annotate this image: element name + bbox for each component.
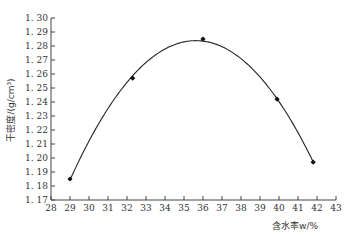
y-tick-label: 1. 19 xyxy=(25,167,48,177)
x-tick-label: 39 xyxy=(254,203,266,213)
y-tick-label: 1. 28 xyxy=(25,41,48,51)
y-tick-label: 1. 25 xyxy=(25,83,48,93)
x-tick-label: 32 xyxy=(121,203,132,213)
y-tick-label: 1. 22 xyxy=(25,125,48,135)
x-tick-label: 34 xyxy=(159,203,171,213)
y-tick-label: 1. 29 xyxy=(25,27,48,37)
y-tick-label: 1. 23 xyxy=(25,111,48,121)
x-tick-label: 42 xyxy=(311,203,322,213)
x-tick-label: 41 xyxy=(292,203,303,213)
y-axis-title: 干密度/(g/cm³) xyxy=(5,78,16,141)
x-axis-title: 含水率w/% xyxy=(272,220,318,231)
svg-text:干密度/(g/cm³): 干密度/(g/cm³) xyxy=(5,78,16,141)
y-tick-label: 1. 20 xyxy=(25,153,48,163)
x-tick-label: 37 xyxy=(216,203,228,213)
y-tick-label: 1. 18 xyxy=(25,181,48,191)
x-tick-label: 43 xyxy=(330,203,342,213)
x-tick-label: 38 xyxy=(235,203,247,213)
x-axis: 28293031323334353637383940414243 xyxy=(45,196,342,213)
fitted-curve xyxy=(70,41,313,180)
y-tick-label: 1. 26 xyxy=(25,69,48,79)
x-tick-label: 36 xyxy=(197,203,209,213)
y-tick-label: 1. 21 xyxy=(25,139,48,149)
x-tick-label: 31 xyxy=(102,203,113,213)
x-tick-label: 33 xyxy=(140,203,152,213)
data-point-marker xyxy=(130,76,135,81)
data-point-marker xyxy=(311,160,316,165)
x-tick-label: 35 xyxy=(178,203,190,213)
y-tick-label: 1. 27 xyxy=(25,55,48,65)
y-axis: 1. 171. 181. 191. 201. 211. 221. 231. 24… xyxy=(25,13,55,205)
x-tick-label: 28 xyxy=(45,203,57,213)
compaction-curve-chart: 干密度/(g/cm³) 1. 171. 181. 191. 201. 211. … xyxy=(0,0,354,236)
x-tick-label: 40 xyxy=(273,203,285,213)
y-tick-label: 1. 30 xyxy=(25,13,48,23)
y-tick-label: 1. 24 xyxy=(25,97,48,107)
x-tick-label: 29 xyxy=(64,203,76,213)
data-markers xyxy=(67,36,315,181)
x-tick-label: 30 xyxy=(83,203,95,213)
